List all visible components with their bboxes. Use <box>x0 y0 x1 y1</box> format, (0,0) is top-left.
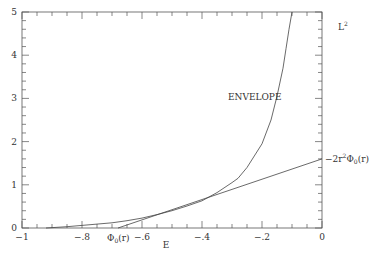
svg-text:−.6: −.6 <box>134 232 150 242</box>
svg-text:−1: −1 <box>15 232 28 242</box>
data-series <box>46 12 322 228</box>
y-axis-label: L2 <box>338 20 348 32</box>
chart: −1−.8−.6−.4−.20012345 E L2 ENVELOPE Φ0(r… <box>0 0 374 257</box>
svg-text:0: 0 <box>319 232 325 242</box>
x-axis-label: E <box>163 240 170 250</box>
phi-zero-label: Φ0(r) <box>107 233 130 244</box>
svg-text:−.4: −.4 <box>194 232 210 242</box>
svg-text:3: 3 <box>11 93 17 103</box>
svg-text:−.8: −.8 <box>74 232 90 242</box>
axis-tick-labels: −1−.8−.6−.4−.20012345 <box>11 7 325 242</box>
svg-text:4: 4 <box>11 50 17 60</box>
svg-text:0: 0 <box>11 223 17 233</box>
envelope-label: ENVELOPE <box>228 92 282 102</box>
svg-text:1: 1 <box>11 180 17 190</box>
svg-text:−.2: −.2 <box>254 232 270 242</box>
axis-ticks <box>22 12 322 228</box>
line-label: −2r2Φ0(r) <box>325 152 369 165</box>
svg-text:5: 5 <box>11 7 17 17</box>
plot-frame <box>22 12 322 228</box>
svg-text:2: 2 <box>11 137 17 147</box>
